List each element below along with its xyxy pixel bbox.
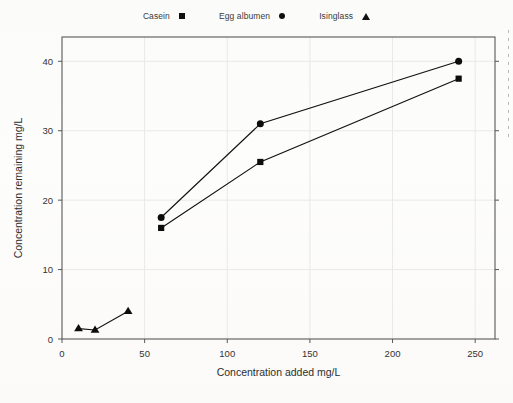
x-tick-label: 50 — [139, 348, 150, 359]
y-tick-label: 0 — [48, 334, 53, 345]
data-point-square — [158, 225, 164, 231]
x-tick-label: 0 — [59, 348, 64, 359]
chart-plot-area: 050100150200250 010203040 Concentration … — [0, 0, 513, 403]
x-tick-label: 150 — [302, 348, 318, 359]
gridlines — [62, 37, 495, 339]
data-series-layer — [74, 58, 462, 333]
y-tick-label: 20 — [42, 195, 53, 206]
data-point-triangle — [74, 324, 83, 331]
data-point-triangle — [91, 326, 100, 333]
series-isinglass — [74, 307, 132, 333]
series-line — [79, 311, 129, 330]
x-axis-tick-labels: 050100150200250 — [59, 348, 483, 359]
data-point-circle — [257, 120, 264, 127]
data-point-circle — [158, 214, 165, 221]
y-axis-title: Concentration remaining mg/L — [12, 118, 24, 259]
x-axis-title: Concentration added mg/L — [217, 366, 341, 378]
x-tick-label: 200 — [385, 348, 401, 359]
data-point-square — [257, 159, 263, 165]
y-tick-label: 40 — [42, 56, 53, 67]
x-tick-label: 250 — [467, 348, 483, 359]
y-tick-label: 30 — [42, 125, 53, 136]
data-point-triangle — [124, 307, 133, 314]
y-tick-label: 10 — [42, 264, 53, 275]
data-point-circle — [455, 58, 462, 65]
data-point-square — [456, 76, 462, 82]
line-chart: 050100150200250 010203040 Concentration … — [0, 0, 513, 403]
axis-tickmarks — [58, 61, 499, 343]
x-tick-label: 100 — [219, 348, 235, 359]
y-axis-tick-labels: 010203040 — [42, 56, 53, 345]
plot-frame — [62, 37, 495, 339]
